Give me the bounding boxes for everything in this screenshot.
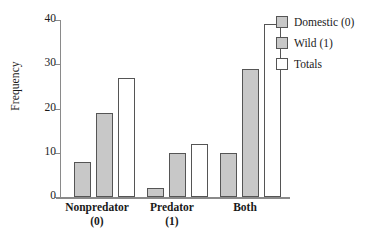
y-tick-label: 10 [45, 145, 57, 157]
legend-item-label: Domestic (0) [294, 16, 354, 28]
bar-predator-domestic [147, 188, 164, 197]
bar-group-predator [147, 20, 213, 197]
legend-swatch-icon [276, 37, 288, 49]
y-tick-label: 40 [45, 12, 57, 24]
x-axis-line [56, 197, 290, 199]
y-tick-label: 30 [45, 56, 57, 68]
y-axis-title: Frequency [9, 41, 21, 131]
x-tick-label-line1: Nonpredator [65, 201, 129, 213]
legend-item-label: Wild (1) [294, 37, 333, 49]
x-tick-label-line2: (1) [127, 214, 217, 228]
x-tick-label-line1: Both [233, 201, 257, 213]
y-tick-label: 20 [45, 101, 57, 113]
legend-swatch-icon [276, 16, 288, 28]
bar-nonpredator-totals [118, 78, 135, 197]
bar-nonpredator-wild [96, 113, 113, 197]
legend-item-label: Totals [294, 58, 322, 70]
plot-area: 0 10 20 30 40 [60, 20, 290, 197]
bar-predator-wild [169, 153, 186, 197]
legend-item-wild: Wild (1) [276, 32, 354, 53]
legend-item-domestic: Domestic (0) [276, 11, 354, 32]
legend-item-totals: Totals [276, 53, 354, 74]
bar-both-wild [242, 69, 259, 197]
x-tick-label-line1: Predator [150, 201, 194, 213]
y-axis-line [60, 20, 61, 197]
bar-nonpredator-domestic [74, 162, 91, 197]
bar-both-domestic [220, 153, 237, 197]
x-tick-label-both: Both [200, 200, 290, 214]
legend-swatch-icon [276, 58, 288, 70]
bar-chart-figure: Frequency 0 10 20 30 40 [0, 0, 384, 242]
bar-predator-totals [191, 144, 208, 197]
chart-legend: Domestic (0) Wild (1) Totals [276, 11, 354, 74]
bar-group-nonpredator [74, 20, 140, 197]
